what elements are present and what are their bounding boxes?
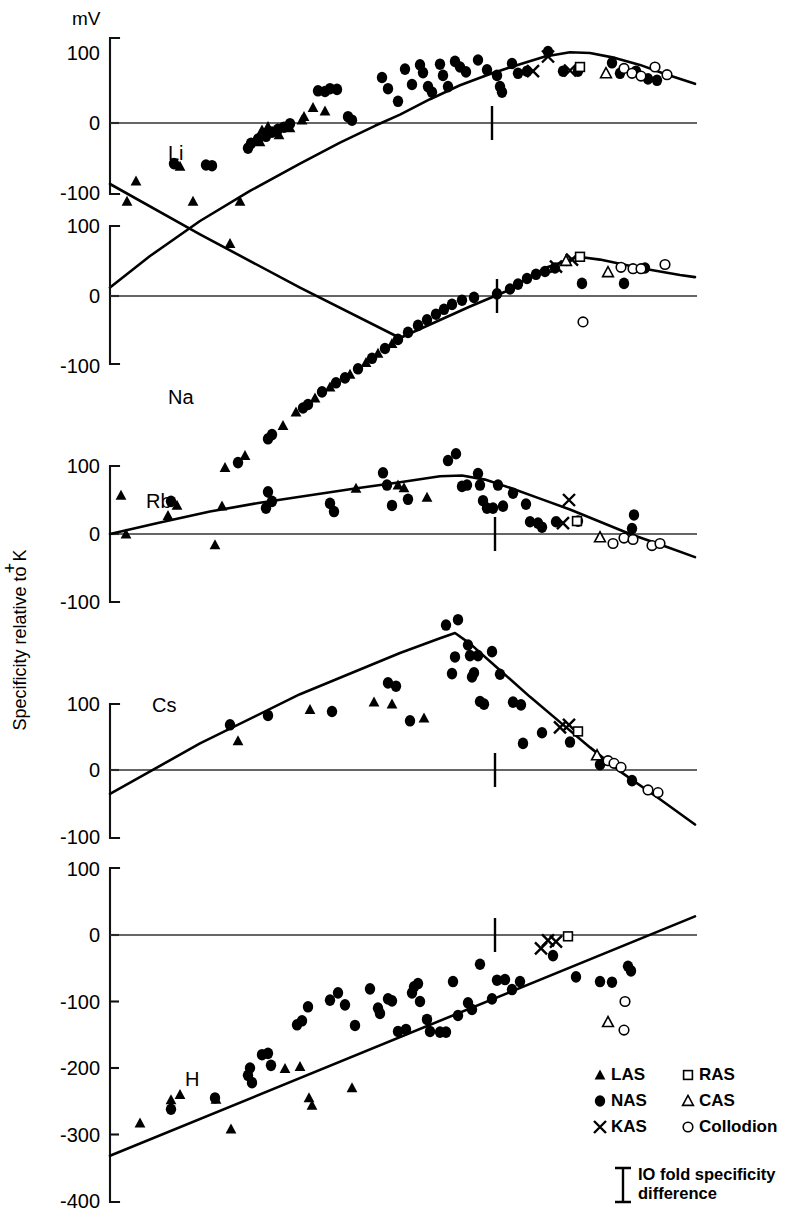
marker-collodion-open-circle xyxy=(608,539,618,549)
marker-collodion-open-circle xyxy=(578,317,588,327)
data-point-nas xyxy=(629,509,639,521)
data-point-las xyxy=(369,697,380,707)
data-point-nas xyxy=(495,668,505,680)
marker-nas-filled-circle xyxy=(463,639,473,651)
data-point-nas xyxy=(207,160,217,172)
marker-nas-filled-circle xyxy=(413,978,423,990)
data-point-nas xyxy=(303,399,313,411)
marker-ras-open-square xyxy=(576,252,585,261)
marker-las-filled-triangle xyxy=(305,704,316,714)
marker-collodion-open-circle xyxy=(628,535,638,545)
panel-label-cs: Cs xyxy=(152,694,176,716)
marker-nas-filled-circle xyxy=(407,79,417,91)
panel-li: 1000-100Li xyxy=(60,38,697,288)
y-tick-label: -100 xyxy=(60,826,100,848)
marker-nas-filled-circle xyxy=(441,1026,451,1038)
y-tick-label: 100 xyxy=(67,215,100,237)
data-point-nas xyxy=(405,715,415,727)
marker-collodion-open-circle xyxy=(683,1122,693,1132)
marker-nas-filled-circle xyxy=(303,1001,313,1013)
data-point-nas xyxy=(515,976,525,988)
data-point-nas xyxy=(247,1077,257,1089)
marker-nas-filled-circle xyxy=(507,984,517,996)
marker-nas-filled-circle xyxy=(438,70,448,82)
data-point-nas xyxy=(393,334,403,346)
data-point-collodion xyxy=(636,264,646,274)
data-point-nas xyxy=(225,719,235,731)
marker-las-filled-triangle xyxy=(304,1092,315,1102)
panel-h: 1000-100-200-300-400H xyxy=(60,858,697,1213)
marker-las-filled-triangle xyxy=(235,196,246,206)
unit-label: mV xyxy=(72,8,101,29)
marker-nas-filled-circle xyxy=(537,727,547,739)
marker-nas-filled-circle xyxy=(350,1020,360,1032)
marker-nas-filled-circle xyxy=(340,372,350,384)
marker-las-filled-triangle xyxy=(299,111,310,121)
legend-item-nas: NAS xyxy=(595,1091,647,1110)
marker-nas-filled-circle xyxy=(387,995,397,1007)
data-point-las xyxy=(175,1089,186,1099)
legend-item-las: LAS xyxy=(595,1065,645,1084)
marker-nas-filled-circle xyxy=(492,70,502,82)
marker-collodion-open-circle xyxy=(662,70,672,80)
marker-collodion-open-circle xyxy=(619,1025,629,1035)
data-point-las xyxy=(131,176,142,186)
data-point-nas xyxy=(493,479,503,491)
data-point-nas xyxy=(607,57,617,69)
marker-nas-filled-circle xyxy=(516,699,526,711)
marker-las-filled-triangle xyxy=(387,699,398,709)
data-point-nas xyxy=(469,292,479,304)
data-point-nas xyxy=(303,1001,313,1013)
marker-nas-filled-circle xyxy=(418,67,428,79)
marker-nas-filled-circle xyxy=(540,266,550,278)
marker-nas-filled-circle xyxy=(422,314,432,326)
ion-specificity-multi-panel-chart: Specificity relative to K + mV 1000-100L… xyxy=(0,0,806,1224)
y-tick-label: 100 xyxy=(67,693,100,715)
data-point-nas xyxy=(507,58,517,70)
marker-nas-filled-circle xyxy=(473,54,483,66)
data-point-nas xyxy=(267,429,277,441)
legend-label-kas: KAS xyxy=(611,1117,647,1136)
data-point-nas xyxy=(263,710,273,722)
marker-las-filled-triangle xyxy=(278,420,289,430)
y-tick-label: 100 xyxy=(67,455,100,477)
marker-las-filled-triangle xyxy=(280,1063,291,1073)
marker-nas-filled-circle xyxy=(331,377,341,389)
marker-nas-filled-circle xyxy=(453,1010,463,1022)
marker-nas-filled-circle xyxy=(267,429,277,441)
marker-nas-filled-circle xyxy=(329,506,339,518)
data-point-nas xyxy=(415,996,425,1008)
marker-nas-filled-circle xyxy=(233,457,243,469)
marker-las-filled-triangle xyxy=(188,196,199,206)
data-point-nas xyxy=(453,614,463,626)
y-tick-label: 0 xyxy=(89,112,100,134)
panel-li-axis-spine xyxy=(110,38,119,194)
data-point-nas xyxy=(473,468,483,480)
data-point-nas xyxy=(507,984,517,996)
data-point-nas xyxy=(447,668,457,680)
panel-na: 1000-100Na xyxy=(60,184,697,472)
reference-note-line1: IO fold specificity xyxy=(638,1165,776,1183)
marker-nas-filled-circle xyxy=(403,494,413,506)
marker-nas-filled-circle xyxy=(303,399,313,411)
marker-las-filled-triangle xyxy=(419,713,430,723)
marker-nas-filled-circle xyxy=(435,58,445,70)
data-point-nas xyxy=(595,976,605,988)
marker-nas-filled-circle xyxy=(595,976,605,988)
data-point-nas xyxy=(482,64,492,76)
marker-nas-filled-circle xyxy=(247,1077,257,1089)
marker-nas-filled-circle xyxy=(537,521,547,533)
data-point-nas xyxy=(473,54,483,66)
data-point-nas xyxy=(425,1026,435,1038)
marker-nas-filled-circle xyxy=(210,1092,220,1104)
marker-nas-filled-circle xyxy=(387,500,397,512)
marker-nas-filled-circle xyxy=(467,1004,477,1016)
legend-symbol-filled-circle xyxy=(595,1095,605,1107)
marker-nas-filled-circle xyxy=(441,619,451,631)
data-point-nas xyxy=(353,363,363,375)
data-point-cas xyxy=(601,68,612,78)
data-point-nas xyxy=(350,1020,360,1032)
data-point-las xyxy=(226,1124,237,1134)
marker-nas-filled-circle xyxy=(332,84,342,96)
reference-note-line2: difference xyxy=(638,1184,717,1202)
